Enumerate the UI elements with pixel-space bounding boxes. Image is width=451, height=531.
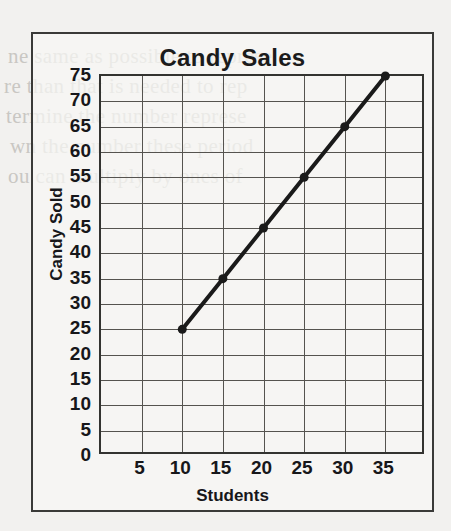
y-axis-tick-label: 15 (70, 369, 91, 388)
y-axis-tick-label: 60 (70, 141, 91, 160)
series-polyline (182, 76, 385, 329)
x-axis-tick-label: 20 (251, 458, 272, 477)
y-axis-tick-label: 70 (70, 90, 91, 109)
chart-figure: Candy Sales Candy Sold Students 05101520… (31, 32, 434, 512)
chart-title: Candy Sales (33, 44, 432, 72)
data-point-marker (340, 122, 349, 131)
y-axis-tick-label: 20 (70, 343, 91, 362)
data-point-marker (178, 325, 187, 334)
x-axis-title: Students (33, 486, 432, 506)
y-axis-tick-label: 65 (70, 115, 91, 134)
y-axis-tick-label: 40 (70, 242, 91, 261)
data-point-marker (259, 224, 268, 233)
x-axis-tick-label: 25 (292, 458, 313, 477)
y-axis-tick-label: 75 (70, 65, 91, 84)
data-series-line (101, 76, 426, 456)
y-axis-tick-label: 10 (70, 394, 91, 413)
y-axis-tick-label: 35 (70, 267, 91, 286)
y-axis-tick-label: 45 (70, 217, 91, 236)
y-axis-tick-label: 30 (70, 293, 91, 312)
x-axis-tick-labels: 5101520253035 (99, 458, 424, 484)
data-point-marker (300, 173, 309, 182)
x-axis-tick-label: 5 (134, 458, 145, 477)
y-axis-tick-label: 55 (70, 166, 91, 185)
x-axis-tick-label: 35 (373, 458, 394, 477)
data-point-marker (381, 72, 390, 81)
y-axis-tick-labels: 051015202530354045505560657075 (47, 74, 95, 454)
y-axis-tick-label: 0 (80, 445, 91, 464)
x-axis-tick-label: 10 (170, 458, 191, 477)
y-axis-tick-label: 25 (70, 318, 91, 337)
plot-area (99, 74, 424, 454)
y-axis-tick-label: 50 (70, 191, 91, 210)
x-axis-tick-label: 30 (332, 458, 353, 477)
y-axis-tick-label: 5 (80, 419, 91, 438)
data-point-marker (218, 274, 227, 283)
x-axis-tick-label: 15 (210, 458, 231, 477)
